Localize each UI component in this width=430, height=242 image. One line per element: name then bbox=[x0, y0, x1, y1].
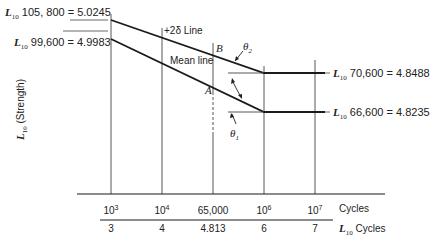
point-a-label: A bbox=[205, 84, 212, 96]
l10-symbol: L10 bbox=[14, 36, 28, 48]
label-lower-right: L10 66,600 = 4.8235 bbox=[333, 106, 430, 123]
x-tick-cycles-0: 103 bbox=[86, 202, 136, 217]
x-tick-log-1: 4 bbox=[137, 223, 187, 235]
x-tick-cycles-3: 106 bbox=[239, 202, 289, 217]
x-tick-cycles-4: 107 bbox=[290, 202, 340, 217]
mean-line-label: Mean line bbox=[170, 55, 213, 67]
label-top-left: L10 105, 800 = 5.0245 bbox=[5, 6, 111, 23]
y-axis-label: L10 (Strength) bbox=[14, 79, 29, 140]
x-tick-log-4: 7 bbox=[290, 223, 340, 235]
x-tick-cycles-2: 65,000 bbox=[188, 202, 238, 217]
l10-symbol: L10 bbox=[333, 106, 347, 118]
theta1-label: θ1 bbox=[230, 127, 239, 144]
value-text: 105, 800 = 5.0245 bbox=[22, 6, 111, 18]
value-text: 70,600 = 4.8488 bbox=[350, 67, 430, 79]
l10-symbol: L10 bbox=[5, 6, 19, 18]
x-axis-log-unit: L10 Cycles bbox=[339, 222, 386, 239]
x-tick-log-0: 3 bbox=[86, 223, 136, 235]
x-tick-cycles-1: 104 bbox=[137, 202, 187, 217]
point-b-label: B bbox=[216, 42, 223, 54]
angle-arrowhead-down bbox=[238, 94, 242, 99]
x-tick-log-2: 4.813 bbox=[188, 223, 238, 235]
angle-arrowhead-up bbox=[231, 78, 235, 84]
x-axis-log-unit-text: Cycles bbox=[356, 223, 386, 234]
theta2-label: θ2 bbox=[243, 40, 252, 57]
x-axis-cycles-unit: Cycles bbox=[339, 203, 369, 215]
value-text: 99,600 = 4.9983 bbox=[31, 36, 111, 48]
y-axis-label-text: (Strength) bbox=[15, 79, 26, 123]
x-tick-log-3: 6 bbox=[239, 223, 289, 235]
l10-symbol: L10 bbox=[14, 126, 26, 140]
label-upper-right: L10 70,600 = 4.8488 bbox=[333, 67, 430, 84]
l10-symbol: L10 bbox=[333, 67, 347, 79]
l10-symbol: L10 bbox=[339, 222, 353, 234]
label-second-left: L10 99,600 = 4.9983 bbox=[14, 36, 111, 53]
value-text: 66,600 = 4.8235 bbox=[350, 106, 430, 118]
plus-2-sigma-line-label: +2δ Line bbox=[164, 25, 203, 37]
